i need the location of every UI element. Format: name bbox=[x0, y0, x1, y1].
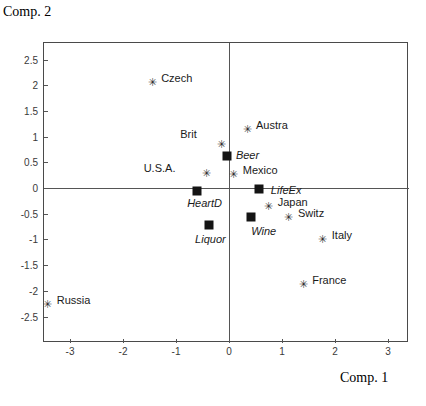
variable-marker bbox=[222, 152, 231, 161]
y-zero-axis-line bbox=[229, 43, 230, 343]
variable-marker bbox=[204, 221, 213, 230]
y-axis-title: Comp. 2 bbox=[3, 4, 51, 20]
y-tick-mark bbox=[44, 85, 48, 86]
observation-label: Italy bbox=[332, 230, 352, 241]
variable-label: HeartD bbox=[187, 198, 222, 209]
observation-marker: ✳ bbox=[318, 233, 327, 244]
x-zero-axis-line bbox=[44, 188, 409, 189]
x-tick-label: 2 bbox=[320, 346, 350, 357]
observation-marker: ✳ bbox=[43, 299, 52, 310]
variable-label: Beer bbox=[236, 150, 259, 161]
y-tick-label: 0 bbox=[8, 183, 38, 194]
x-tick-mark bbox=[335, 339, 336, 343]
y-tick-label: -1.5 bbox=[8, 260, 38, 271]
y-tick-label: -2 bbox=[8, 286, 38, 297]
observation-marker: ✳ bbox=[243, 123, 252, 134]
x-tick-mark bbox=[282, 339, 283, 343]
x-tick-label: 1 bbox=[267, 346, 297, 357]
y-tick-mark bbox=[44, 111, 48, 112]
y-tick-label: -2.5 bbox=[8, 312, 38, 323]
y-tick-label: -0.5 bbox=[8, 209, 38, 220]
observation-label: U.S.A. bbox=[144, 163, 176, 174]
variable-label: Liquor bbox=[195, 234, 226, 245]
y-tick-mark bbox=[44, 188, 48, 189]
y-tick-label: 1 bbox=[8, 132, 38, 143]
x-tick-label: -2 bbox=[108, 346, 138, 357]
x-tick-mark bbox=[229, 339, 230, 343]
variable-marker bbox=[247, 212, 256, 221]
y-tick-mark bbox=[44, 214, 48, 215]
x-tick-mark bbox=[388, 339, 389, 343]
y-tick-mark bbox=[44, 265, 48, 266]
variable-label: LifeEx bbox=[271, 185, 302, 196]
x-tick-label: -1 bbox=[161, 346, 191, 357]
y-tick-label: 2 bbox=[8, 80, 38, 91]
observation-marker: ✳ bbox=[148, 77, 157, 88]
y-tick-label: -1 bbox=[8, 234, 38, 245]
chart-canvas: Comp. 2 Comp. 1 -3-2-10123 2.521.510.50-… bbox=[0, 0, 426, 406]
x-axis-title: Comp. 1 bbox=[340, 370, 388, 386]
observation-marker: ✳ bbox=[217, 138, 226, 149]
x-tick-label: 0 bbox=[214, 346, 244, 357]
observation-label: Czech bbox=[161, 73, 192, 84]
observation-marker: ✳ bbox=[229, 169, 238, 180]
y-tick-mark bbox=[44, 60, 48, 61]
observation-label: Austra bbox=[256, 120, 288, 131]
observation-marker: ✳ bbox=[264, 200, 273, 211]
y-tick-mark bbox=[44, 317, 48, 318]
x-tick-mark bbox=[123, 339, 124, 343]
variable-marker bbox=[255, 185, 264, 194]
y-tick-label: 1.5 bbox=[8, 106, 38, 117]
observation-label: Brit bbox=[180, 129, 197, 140]
observation-label: Mexico bbox=[243, 165, 278, 176]
x-tick-mark bbox=[176, 339, 177, 343]
observation-label: France bbox=[312, 275, 346, 286]
y-tick-mark bbox=[44, 239, 48, 240]
x-tick-label: 3 bbox=[373, 346, 403, 357]
observation-label: Russia bbox=[57, 295, 91, 306]
observation-marker: ✳ bbox=[284, 211, 293, 222]
observation-marker: ✳ bbox=[202, 168, 211, 179]
observation-label: Switz bbox=[298, 208, 324, 219]
x-tick-mark bbox=[70, 339, 71, 343]
y-tick-label: 0.5 bbox=[8, 157, 38, 168]
y-tick-mark bbox=[44, 137, 48, 138]
observation-marker: ✳ bbox=[299, 279, 308, 290]
y-tick-mark bbox=[44, 291, 48, 292]
variable-label: Wine bbox=[251, 226, 276, 237]
y-tick-label: 2.5 bbox=[8, 55, 38, 66]
x-tick-label: -3 bbox=[55, 346, 85, 357]
variable-marker bbox=[193, 187, 202, 196]
y-tick-mark bbox=[44, 162, 48, 163]
plot-area: -3-2-10123 2.521.510.50-0.5-1-1.5-2-2.5 … bbox=[43, 42, 408, 342]
